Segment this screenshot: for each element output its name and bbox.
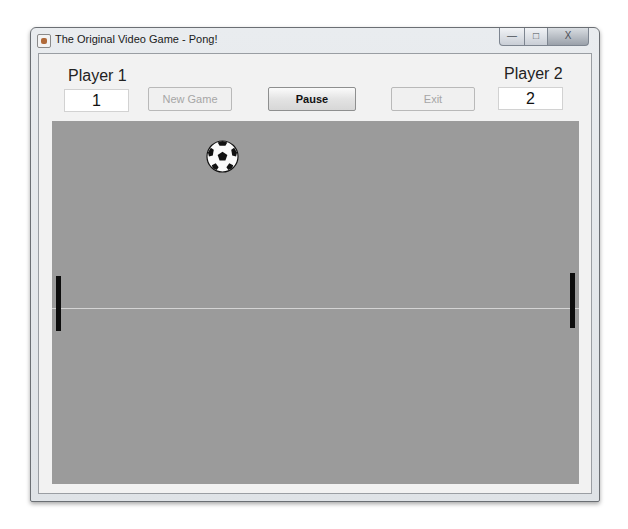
title-bar[interactable]: The Original Video Game - Pong! — □ X	[31, 28, 599, 53]
maximize-icon: □	[525, 28, 547, 44]
center-line	[52, 308, 579, 309]
player-1-label: Player 1	[68, 67, 127, 85]
minimize-button[interactable]: —	[499, 28, 525, 46]
window-controls: — □ X	[499, 28, 589, 46]
player-1-score: 1	[64, 89, 129, 112]
soccer-ball-icon	[206, 140, 239, 173]
exit-button[interactable]: Exit	[391, 87, 475, 111]
new-game-button[interactable]: New Game	[148, 87, 232, 111]
java-app-icon	[37, 34, 51, 48]
pause-button[interactable]: Pause	[268, 87, 356, 111]
content-panel: Player 1 1 New Game Pause Exit Player 2 …	[38, 53, 592, 494]
close-button[interactable]: X	[548, 28, 589, 46]
game-field[interactable]	[52, 121, 579, 484]
maximize-button[interactable]: □	[525, 28, 548, 46]
minimize-icon: —	[500, 28, 524, 44]
player-2-label: Player 2	[504, 65, 563, 83]
game-window: The Original Video Game - Pong! — □ X Pl…	[30, 27, 600, 502]
window-title: The Original Video Game - Pong!	[55, 33, 217, 45]
player-2-score: 2	[498, 87, 563, 110]
left-paddle	[56, 276, 61, 331]
right-paddle	[570, 273, 575, 328]
close-icon: X	[548, 28, 588, 44]
